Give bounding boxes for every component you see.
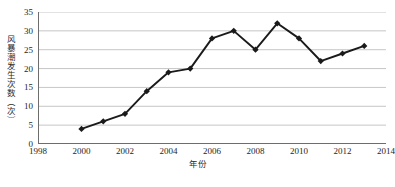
- x-axis-tick-label: 2002: [116, 146, 134, 157]
- y-axis-tick-label: 5: [29, 121, 34, 130]
- x-axis-tick-label: 2012: [334, 146, 352, 157]
- x-axis-tick-label: 2010: [290, 146, 308, 157]
- x-axis-tick-label: 2008: [247, 146, 265, 157]
- data-point-marker: 2013: 26: [361, 43, 367, 49]
- x-axis-tick-label: 2014: [377, 146, 395, 157]
- y-axis-tick-label: 25: [24, 45, 33, 54]
- y-axis-tick-label: 35: [24, 8, 33, 17]
- y-axis-tick-label: 30: [24, 26, 33, 35]
- plot-area: 2000: 42001: 62002: 82003: 142004: 19200…: [38, 12, 386, 144]
- y-axis-tick-label: 20: [24, 64, 33, 73]
- x-axis-tick-labels: 199820002002200420062008201020122014: [38, 146, 386, 160]
- x-axis-tick-label: 2006: [203, 146, 221, 157]
- y-axis-tick-label: 10: [24, 102, 33, 111]
- plot-svg: 2000: 42001: 62002: 82003: 142004: 19200…: [38, 12, 386, 144]
- x-axis-tick-label: 2004: [160, 146, 178, 157]
- data-point-marker: 2001: 6: [100, 118, 106, 124]
- x-axis-tick-label: 1998: [29, 146, 47, 157]
- data-point-marker: 2012: 24: [339, 50, 345, 56]
- axis-lines: [38, 12, 386, 144]
- y-axis-tick-labels: 05101520253035: [14, 10, 36, 146]
- storm-surge-line-chart: 风暴潮发生次数（次） 05101520253035 2000: 42001: 6…: [0, 0, 395, 187]
- y-axis-tick-label: 15: [24, 83, 33, 92]
- data-point-marker: 2000: 4: [78, 126, 84, 132]
- gridlines: [38, 12, 386, 125]
- x-axis-tick-label: 2000: [73, 146, 91, 157]
- x-axis-title: 年份: [0, 159, 395, 169]
